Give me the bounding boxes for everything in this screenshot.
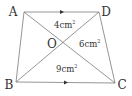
vertex-label-c: C	[117, 78, 126, 92]
vertex-label-d: D	[101, 5, 111, 19]
parallel-arrow-bc-icon	[64, 81, 68, 85]
trapezoid-diagram: A D B C O 4cm2 6cm2 9cm2	[0, 0, 132, 96]
area-label-aod: 4cm2	[54, 19, 75, 30]
side-ab	[16, 12, 24, 82]
intersection-label-o: O	[47, 37, 57, 51]
area-label-doc: 6cm2	[79, 38, 100, 49]
parallel-arrow-ad-icon	[60, 10, 64, 14]
vertex-label-a: A	[8, 5, 18, 19]
vertex-label-b: B	[5, 78, 14, 92]
area-label-boc: 9cm2	[56, 63, 77, 74]
